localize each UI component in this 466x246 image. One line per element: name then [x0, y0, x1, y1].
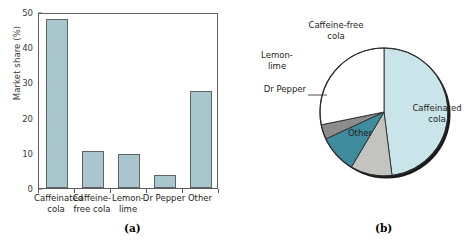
pie-slice-label-line: Other: [332, 128, 388, 139]
y-axis-tick-label: 20: [0, 114, 38, 124]
bar: [154, 175, 176, 188]
bar: [190, 91, 212, 188]
bar: [46, 19, 68, 188]
pie-slice-label-line: cola: [400, 114, 466, 125]
x-axis-tick-label-line: Other: [178, 193, 222, 204]
y-axis-tick-label: 50: [0, 8, 38, 18]
pie-slice-label: Dr Pepper: [232, 84, 306, 95]
y-axis-tick-label: 40: [0, 43, 38, 53]
pie-slice-label-line: lime: [249, 61, 305, 72]
panel-b-letter: (b): [375, 222, 392, 234]
pie-slice-label-line: Dr Pepper: [232, 84, 306, 95]
x-axis-tick-label: Other: [178, 193, 222, 204]
y-axis-tick-label: 10: [0, 149, 38, 159]
cropped-caption-text: a for the soft-drink market. Market s: [150, 239, 318, 241]
x-axis-tick-mark: [218, 189, 219, 193]
pie-slice-label-line: Lemon-: [249, 50, 305, 61]
pie-slice-label-line: Caffeinated: [400, 103, 466, 114]
bar-chart-plot-area: [38, 13, 218, 189]
pie-slice-label: Other: [332, 128, 388, 139]
bar-chart-y-axis-label: Market share (%): [12, 0, 22, 128]
pie-slice-label-line: cola: [290, 31, 382, 42]
y-axis-tick-label: 0: [0, 184, 38, 194]
bar: [82, 151, 104, 188]
pie-slice-label: Lemon-lime: [249, 50, 305, 71]
bar-chart-panel: Market share (%) 01020304050 Caffeinated…: [0, 0, 232, 246]
pie-slice: Other: 28.2%: [320, 48, 384, 125]
panel-a-letter: (a): [124, 222, 141, 234]
pie-slice-label: Caffeine-freecola: [290, 20, 382, 41]
y-axis-tick-label: 30: [0, 78, 38, 88]
bar: [118, 154, 140, 188]
pie-slice-label: Caffeinatedcola: [400, 103, 466, 124]
cropped-caption-strip: a for the soft-drink market. Market s: [0, 239, 456, 246]
pie-chart-panel: Caffeinated cola: 48%Caffeine-free cola:…: [232, 0, 456, 246]
pie-slice-label-line: Caffeine-free: [290, 20, 382, 31]
x-axis-tick-label-line: lime: [106, 204, 150, 215]
